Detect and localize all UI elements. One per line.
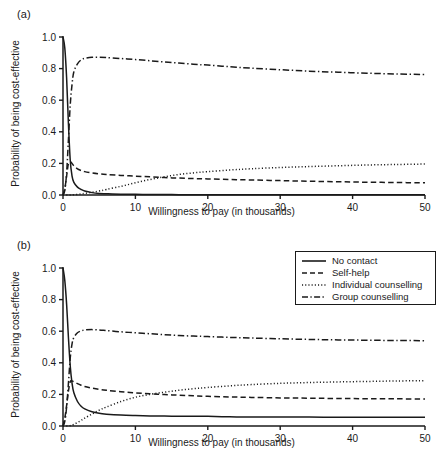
legend-item-no-contact: No contact <box>301 255 431 267</box>
legend-swatch-dashdot-icon <box>301 292 327 302</box>
svg-text:1.0: 1.0 <box>42 263 56 274</box>
panel-b-xaxis-title: Willingness to pay (in thousands) <box>0 437 443 448</box>
panel-a: (a) 0.00.20.40.60.81.001020304050 Willin… <box>0 0 443 231</box>
legend-label-group-counselling: Group counselling <box>332 292 409 302</box>
legend-label-individual-counselling: Individual counselling <box>332 280 422 290</box>
legend-swatch-dotted-icon <box>301 280 327 290</box>
svg-text:0.8: 0.8 <box>42 63 56 74</box>
panel-a-yaxis-title: Probability of being cost-effective <box>10 29 21 199</box>
svg-text:0.0: 0.0 <box>42 421 56 432</box>
legend-label-self-help: Self-help <box>332 268 370 278</box>
svg-text:0.2: 0.2 <box>42 158 56 169</box>
figure-container: (a) 0.00.20.40.60.81.001020304050 Willin… <box>0 0 443 462</box>
svg-text:0.4: 0.4 <box>42 126 56 137</box>
svg-text:0.6: 0.6 <box>42 326 56 337</box>
svg-text:0.8: 0.8 <box>42 294 56 305</box>
legend-item-individual-counselling: Individual counselling <box>301 279 431 291</box>
svg-text:0.0: 0.0 <box>42 190 56 201</box>
panel-b-yaxis-title: Probability of being cost-effective <box>10 260 21 430</box>
legend: No contact Self-help Individual counsell… <box>295 251 436 305</box>
legend-label-no-contact: No contact <box>332 256 377 266</box>
legend-item-group-counselling: Group counselling <box>301 291 431 303</box>
svg-text:1.0: 1.0 <box>42 32 56 43</box>
legend-item-self-help: Self-help <box>301 267 431 279</box>
panel-a-xaxis-title: Willingness to pay (in thousands) <box>0 206 443 217</box>
panel-a-plot: 0.00.20.40.60.81.001020304050 <box>0 0 443 231</box>
svg-text:0.4: 0.4 <box>42 357 56 368</box>
legend-swatch-solid-icon <box>301 256 327 266</box>
legend-swatch-dashed-icon <box>301 268 327 278</box>
svg-text:0.2: 0.2 <box>42 389 56 400</box>
svg-text:0.6: 0.6 <box>42 95 56 106</box>
